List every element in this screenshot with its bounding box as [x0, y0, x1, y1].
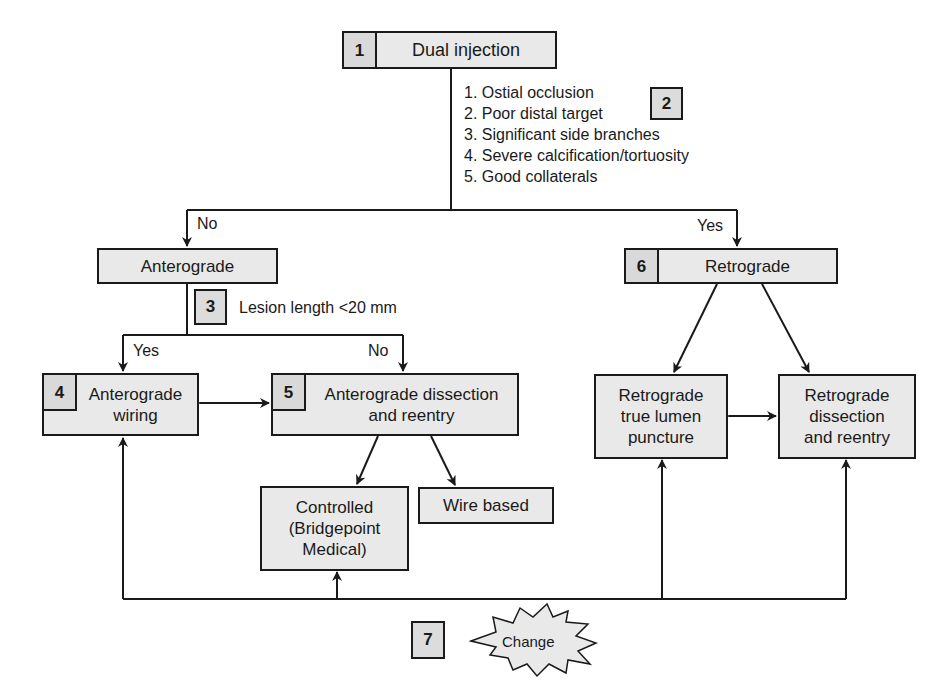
flowchart-canvas: 1 Dual injection 1. Ostial occlusion 2. … — [0, 0, 946, 693]
retrograde-label: Retrograde — [705, 256, 790, 277]
step-number-4: 4 — [44, 375, 77, 411]
retrograde-true-lumen-box: Retrograde true lumen puncture — [594, 374, 728, 459]
retrograde-box: 6 Retrograde — [624, 248, 838, 284]
change-label: Change — [502, 632, 555, 652]
step-number-2: 2 — [650, 87, 683, 120]
step-number-7: 7 — [411, 621, 445, 659]
anterograde-dissection-box: 5 Anterograde dissection and reentry — [271, 373, 519, 436]
retrograde-true-lumen-label: Retrograde true lumen puncture — [618, 385, 703, 448]
edge-label-yes: Yes — [697, 216, 723, 236]
anterograde-label: Anterograde — [141, 256, 235, 277]
criteria-item: 3. Significant side branches — [464, 124, 689, 145]
wire-based-box: Wire based — [418, 487, 554, 524]
criteria-item: 4. Severe calcification/tortuosity — [464, 145, 689, 166]
edge-label-no: No — [368, 341, 388, 361]
controlled-box: Controlled (Bridgepoint Medical) — [260, 486, 409, 571]
step-number-3: 3 — [194, 289, 227, 325]
step-number-1: 1 — [344, 33, 377, 67]
criteria-item: 5. Good collaterals — [464, 166, 689, 187]
anterograde-box: Anterograde — [97, 248, 278, 284]
anterograde-wiring-box: 4 Anterograde wiring — [42, 373, 199, 436]
lesion-length-label: Lesion length <20 mm — [239, 298, 397, 318]
dual-injection-box: 1 Dual injection — [342, 31, 557, 69]
edge-label-yes: Yes — [133, 341, 159, 361]
anterograde-wiring-label: Anterograde wiring — [89, 384, 183, 426]
wire-based-label: Wire based — [443, 495, 529, 516]
dual-injection-label: Dual injection — [412, 40, 520, 61]
step-number-5: 5 — [273, 375, 306, 411]
retrograde-dissection-label: Retrograde dissection and reentry — [804, 385, 890, 448]
step-number-6: 6 — [626, 250, 659, 282]
controlled-label: Controlled (Bridgepoint Medical) — [289, 497, 381, 560]
retrograde-dissection-box: Retrograde dissection and reentry — [778, 374, 916, 459]
edge-label-no: No — [197, 214, 217, 234]
anterograde-dissection-label: Anterograde dissection and reentry — [325, 384, 499, 426]
